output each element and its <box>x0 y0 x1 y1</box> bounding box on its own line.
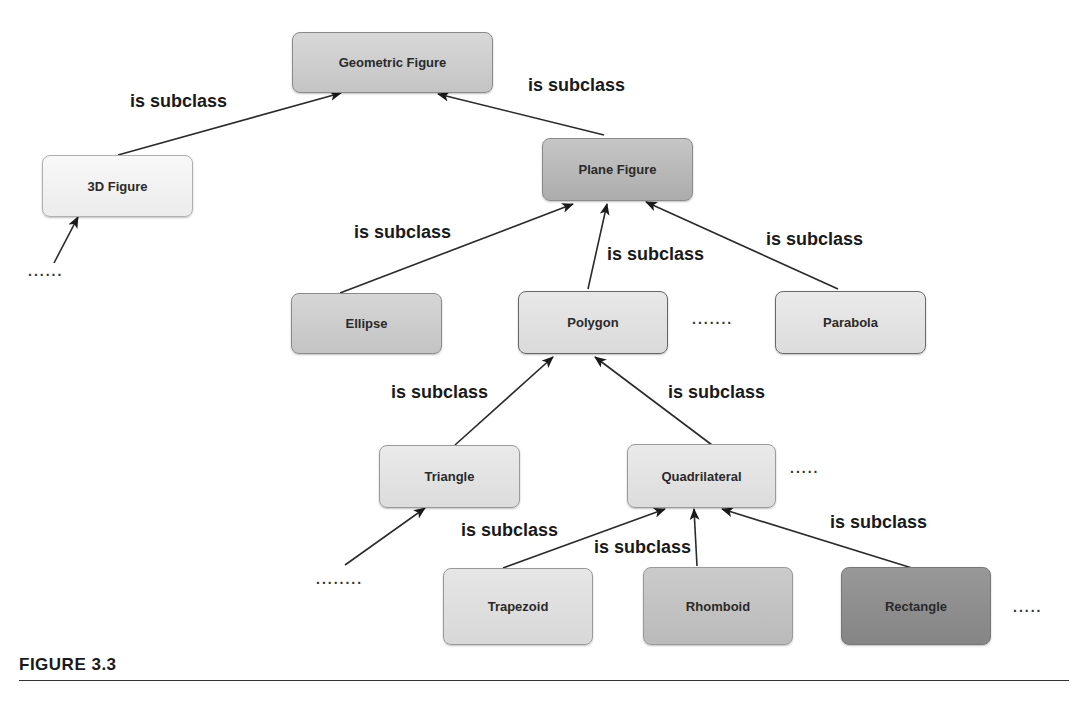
edge-label-triangle-to-polygon: is subclass <box>391 382 488 403</box>
node-label: Quadrilateral <box>661 469 741 484</box>
ellipsis-right-of-rectangle: ..... <box>1013 599 1042 615</box>
node-quadrilateral: Quadrilateral <box>627 444 776 508</box>
node-polygon: Polygon <box>518 291 668 354</box>
edge-unknown-to-3d <box>54 217 78 263</box>
node-ellipse: Ellipse <box>291 293 442 354</box>
figure-caption: FIGURE 3.3 <box>19 655 117 675</box>
edge-label-ellipse-to-plane: is subclass <box>354 222 451 243</box>
node-label: 3D Figure <box>88 179 148 194</box>
node-label: Ellipse <box>346 316 388 331</box>
node-rectangle: Rectangle <box>841 567 991 645</box>
ellipsis-below-triangle: ........ <box>316 571 363 587</box>
node-label: Plane Figure <box>578 162 656 177</box>
edge-label-polygon-to-plane: is subclass <box>607 244 704 265</box>
node-triangle: Triangle <box>379 445 520 508</box>
ellipsis-between-polygon-parabola: ....... <box>692 311 733 327</box>
edge-plane-to-geometric <box>438 94 604 135</box>
node-label: Parabola <box>823 315 878 330</box>
edge-polygon-to-plane <box>588 204 607 289</box>
edge-label-trapezoid-to-quadrilateral: is subclass <box>461 520 558 541</box>
node-label: Geometric Figure <box>339 55 447 70</box>
edge-label-parabola-to-plane: is subclass <box>766 229 863 250</box>
node-label: Triangle <box>425 469 475 484</box>
caption-divider <box>19 680 1069 681</box>
ellipsis-below-3d: ...... <box>28 263 63 279</box>
node-parabola: Parabola <box>775 291 926 354</box>
node-label: Rectangle <box>885 599 947 614</box>
edge-label-rhomboid-to-quadrilateral: is subclass <box>594 537 691 558</box>
node-rhomboid: Rhomboid <box>643 567 793 645</box>
node-label: Rhomboid <box>686 599 750 614</box>
node-geometric-figure: Geometric Figure <box>292 32 493 93</box>
edge-unknown-to-triangle <box>345 508 425 565</box>
node-label: Polygon <box>567 315 618 330</box>
node-3d-figure: 3D Figure <box>42 155 193 217</box>
edge-label-quadrilateral-to-polygon: is subclass <box>668 382 765 403</box>
node-plane-figure: Plane Figure <box>542 138 693 201</box>
edge-ellipse-to-plane <box>340 204 573 293</box>
edge-label-3d-to-geometric: is subclass <box>130 91 227 112</box>
node-label: Trapezoid <box>488 599 549 614</box>
ellipsis-right-of-quadrilateral: ..... <box>790 460 819 476</box>
class-hierarchy-diagram: Geometric Figure 3D Figure Plane Figure … <box>0 0 1088 707</box>
node-trapezoid: Trapezoid <box>443 568 593 645</box>
edge-label-rectangle-to-quadrilateral: is subclass <box>830 512 927 533</box>
edge-label-plane-to-geometric: is subclass <box>528 75 625 96</box>
edge-rhomboid-to-quadrilateral <box>694 509 697 566</box>
